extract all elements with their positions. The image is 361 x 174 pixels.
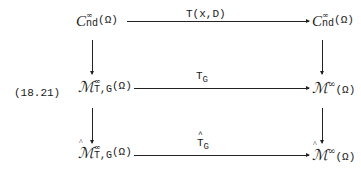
arrow-mid-label-main: T — [196, 70, 203, 82]
node-arg: (Ω) — [336, 151, 356, 163]
arrow-mid-label: TG — [196, 70, 208, 82]
node-sup: ∞ — [328, 79, 336, 89]
node-bot-right: ℳ∞(Ω) — [312, 148, 355, 163]
arrow-bot-label: TG — [197, 137, 209, 149]
arrow-bot-label-main: T — [197, 137, 204, 149]
arrow-right-lower — [322, 108, 323, 143]
node-symbol: C — [312, 13, 322, 29]
node-sub: nd — [86, 19, 98, 29]
arrow-bot-label-sub: G — [204, 142, 209, 152]
equation-number: (18.21) — [14, 87, 60, 99]
node-mid-left: ℳ∞T,G(Ω) — [78, 80, 132, 97]
node-sub: T,G — [94, 151, 112, 161]
arrow-top-label: T(x,D) — [186, 8, 226, 20]
node-top-right: C∞nd(Ω) — [312, 14, 354, 31]
arrow-mid — [134, 88, 309, 89]
arrow-bot — [134, 155, 309, 156]
node-symbol: ℳ — [312, 148, 328, 163]
node-sub: T,G — [94, 85, 112, 95]
node-bot-left: ℳ∞T,G(Ω) — [78, 146, 132, 163]
arrow-mid-label-sub: G — [203, 75, 208, 85]
arrow-left-lower — [92, 108, 93, 143]
arrow-left-upper — [92, 40, 93, 74]
node-arg: (Ω) — [336, 84, 356, 96]
node-symbol: ℳ — [312, 80, 328, 96]
node-symbol: ℳ — [78, 146, 94, 161]
node-sub: nd — [322, 19, 334, 29]
node-mid-right: ℳ∞(Ω) — [312, 81, 355, 96]
arrow-right-upper — [322, 40, 323, 74]
node-arg: (Ω) — [112, 80, 132, 92]
node-arg: (Ω) — [334, 14, 354, 26]
node-symbol: ℳ — [78, 79, 94, 95]
node-symbol: C — [76, 13, 86, 29]
node-arg: (Ω) — [98, 14, 118, 26]
node-top-left: C∞nd(Ω) — [76, 14, 118, 31]
node-arg: (Ω) — [112, 146, 132, 158]
node-sup: ∞ — [328, 146, 336, 156]
arrow-top — [127, 21, 309, 22]
